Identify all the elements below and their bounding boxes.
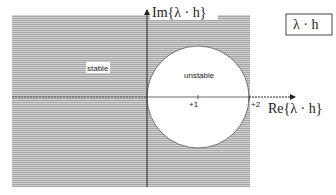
real-axis-label: Re{λ · h} [268, 101, 322, 116]
stability-diagram: +1 +2 stable unstable Im{λ · h} Re{λ · h… [0, 0, 336, 195]
tick-label-1: +1 [189, 100, 199, 109]
tick-label-2: +2 [251, 100, 261, 109]
stable-label: stable [87, 64, 109, 73]
lambda-h-label: λ · h [293, 17, 318, 32]
unstable-label: unstable [184, 71, 215, 80]
imag-axis-label: Im{λ · h} [152, 5, 206, 20]
